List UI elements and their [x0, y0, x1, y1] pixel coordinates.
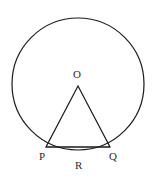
label-arc-r: R — [75, 160, 82, 171]
geometry-figure: O P Q R — [0, 0, 156, 179]
geometry-canvas — [0, 0, 156, 179]
circumscribed-circle — [12, 18, 144, 150]
label-center-o: O — [73, 69, 81, 80]
label-point-q: Q — [109, 151, 117, 162]
inscribed-triangle — [46, 86, 110, 147]
label-point-p: P — [39, 151, 45, 162]
